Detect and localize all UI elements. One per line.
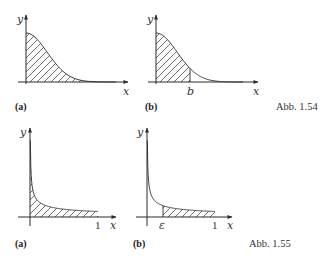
hatch-line — [111, 30, 163, 82]
y-axis-label: y — [146, 13, 154, 26]
hatch-line — [0, 130, 44, 217]
hatched-area — [104, 30, 240, 82]
hatch-line — [27, 130, 114, 217]
hatch-line — [154, 180, 191, 217]
hatch-line — [0, 130, 30, 217]
hatch-line — [51, 30, 103, 82]
hatch-line — [210, 180, 247, 217]
hatch-line — [20, 130, 107, 217]
hatch-line — [2, 30, 54, 82]
hatch-line — [37, 30, 89, 82]
hatched-area — [126, 180, 247, 217]
hatch-line — [104, 30, 156, 82]
fig155-panel-b: y ε 1 x (b) — [126, 126, 247, 250]
hatch-line — [55, 130, 142, 217]
hatch-line — [0, 130, 72, 217]
hatch-line — [0, 130, 79, 217]
hatch-line — [13, 130, 100, 217]
hatch-line — [34, 130, 121, 217]
hatch-line — [0, 130, 65, 217]
tick-label-b: b — [187, 85, 194, 98]
hatch-line — [0, 130, 51, 217]
hatch-line — [0, 30, 26, 82]
hatch-line — [97, 130, 184, 217]
hatched-area — [0, 130, 184, 217]
hatch-line — [48, 130, 135, 217]
fig154-panel-b: y x b (b) — [104, 13, 260, 113]
hatch-line — [65, 30, 117, 82]
x-axis-label: x — [227, 219, 234, 232]
hatch-line — [79, 30, 131, 82]
panel-label: (a) — [15, 238, 27, 250]
x-axis-label: x — [253, 85, 260, 98]
y-axis-label: y — [16, 13, 24, 26]
hatched-area — [0, 30, 166, 82]
panel-label: (b) — [133, 238, 145, 250]
hatch-line — [41, 130, 128, 217]
hatch-line — [58, 30, 110, 82]
hatch-line — [174, 30, 226, 82]
hatch-line — [44, 30, 96, 82]
hatch-line — [140, 180, 177, 217]
hatch-line — [90, 130, 177, 217]
hatch-line — [83, 130, 170, 217]
hatch-line — [0, 130, 58, 217]
hatch-line — [167, 30, 219, 82]
hatch-line — [72, 30, 124, 82]
hatch-line — [107, 30, 159, 82]
x-axis-label: x — [123, 85, 130, 98]
hatch-line — [168, 180, 205, 217]
hatch-line — [6, 130, 93, 217]
curve — [156, 33, 243, 82]
hatch-line — [161, 180, 198, 217]
hatch-line — [133, 180, 170, 217]
fig154-panel-a: y x (a) — [0, 13, 166, 113]
hatch-line — [0, 30, 40, 82]
fig155-panel-a: y 1 x (a) — [0, 126, 184, 250]
figure-canvas: y x (a) y x b (b) Abb. 1.54 y 1 x (a) y — [0, 0, 333, 260]
x-axis-label: x — [110, 219, 117, 232]
curve — [147, 140, 215, 211]
hatch-line — [118, 30, 170, 82]
curve — [30, 140, 98, 211]
hatch-line — [126, 180, 163, 217]
hatch-line — [125, 30, 177, 82]
y-axis-label: y — [19, 126, 27, 139]
tick-label-1: 1 — [95, 219, 101, 231]
hatch-line — [160, 30, 212, 82]
panel-label: (b) — [145, 101, 157, 113]
hatch-line — [86, 30, 138, 82]
hatch-line — [62, 130, 149, 217]
y-axis-label: y — [136, 126, 144, 139]
hatch-line — [16, 30, 68, 82]
figure-caption: Abb. 1.55 — [249, 238, 291, 249]
hatch-line — [132, 30, 184, 82]
panel-label: (a) — [15, 101, 27, 113]
hatch-line — [100, 30, 152, 82]
hatch-line — [0, 30, 47, 82]
hatch-line — [188, 30, 240, 82]
figure-caption: Abb. 1.54 — [276, 101, 318, 112]
hatch-line — [181, 30, 233, 82]
hatch-line — [30, 30, 82, 82]
hatch-line — [69, 130, 156, 217]
hatch-line — [76, 130, 163, 217]
curve — [26, 33, 116, 82]
tick-label-epsilon: ε — [159, 219, 165, 232]
tick-label-1: 1 — [212, 219, 218, 231]
hatch-line — [93, 30, 145, 82]
